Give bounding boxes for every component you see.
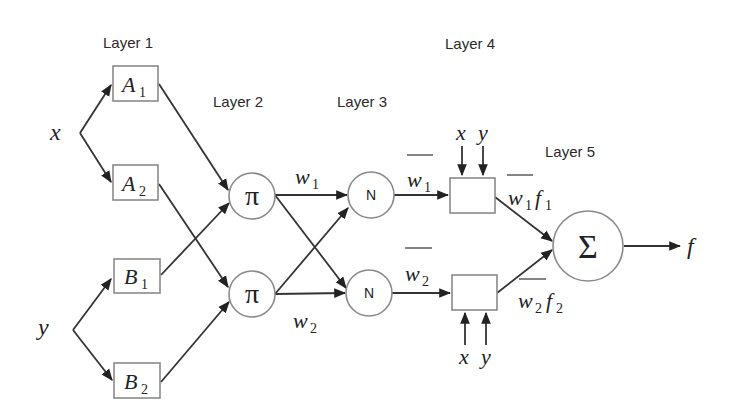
layer3-label: Layer 3 xyxy=(337,93,387,110)
svg-text:w: w xyxy=(295,164,310,189)
svg-text:1: 1 xyxy=(424,180,431,195)
label-w1-bar: w 1 xyxy=(407,155,433,195)
svg-text:A: A xyxy=(120,72,136,97)
svg-text:f: f xyxy=(546,288,555,313)
input-y: y xyxy=(36,314,49,340)
node-A1: A 1 xyxy=(113,66,158,101)
svg-text:Σ: Σ xyxy=(578,228,598,265)
svg-text:2: 2 xyxy=(422,274,429,289)
layer1-to-layer2-edges xyxy=(159,84,229,382)
layer1-label: Layer 1 xyxy=(103,34,153,51)
svg-text:w: w xyxy=(293,308,308,333)
layer2-label: Layer 2 xyxy=(213,93,263,110)
node-B2: B 2 xyxy=(114,363,160,398)
node-layer4-1 xyxy=(450,178,495,213)
svg-text:B: B xyxy=(124,264,137,289)
svg-text:w: w xyxy=(407,167,422,192)
label-w2f2: w 2 f 2 xyxy=(518,279,563,316)
layer4-top-y: y xyxy=(476,120,488,145)
svg-text:1: 1 xyxy=(545,198,552,213)
svg-text:w: w xyxy=(405,261,420,286)
label-w2: w 2 xyxy=(293,308,317,336)
layer4-top-inputs xyxy=(462,146,486,345)
svg-text:w: w xyxy=(518,288,533,313)
node-pi2: π xyxy=(229,271,275,317)
node-N1: N xyxy=(348,172,394,218)
svg-text:1: 1 xyxy=(139,85,146,100)
node-pi1: π xyxy=(229,173,275,219)
svg-text:2: 2 xyxy=(310,321,317,336)
layer3-to-layer4-edges xyxy=(392,195,450,293)
input-x: x xyxy=(49,119,61,145)
svg-text:B: B xyxy=(124,369,137,394)
anfis-diagram: Layer 1 Layer 2 Layer 3 Layer 4 Layer 5 … xyxy=(0,0,737,416)
svg-text:N: N xyxy=(366,187,376,203)
svg-text:2: 2 xyxy=(556,301,563,316)
node-sum: Σ xyxy=(553,211,623,281)
output-f: f xyxy=(687,233,697,259)
layer4-bottom-x: x xyxy=(458,344,469,369)
svg-text:2: 2 xyxy=(139,184,146,199)
node-A2: A 2 xyxy=(113,165,158,200)
label-w1: w 1 xyxy=(295,164,319,192)
svg-text:2: 2 xyxy=(535,301,542,316)
label-w2-bar: w 2 xyxy=(405,248,432,289)
svg-text:f: f xyxy=(535,185,544,210)
svg-text:N: N xyxy=(364,285,374,301)
svg-text:2: 2 xyxy=(141,382,148,397)
svg-text:π: π xyxy=(245,180,259,211)
svg-text:π: π xyxy=(245,278,259,309)
node-N2: N xyxy=(346,270,392,316)
layer4-top-x: x xyxy=(455,120,466,145)
label-w1f1: w 1 f 1 xyxy=(507,175,552,213)
svg-text:A: A xyxy=(120,171,136,196)
svg-text:1: 1 xyxy=(141,277,148,292)
layer4-label: Layer 4 xyxy=(445,35,495,52)
layer2-to-layer3-edges xyxy=(275,195,348,294)
svg-text:1: 1 xyxy=(525,198,532,213)
input-edges xyxy=(73,85,112,380)
node-layer4-2 xyxy=(452,275,497,310)
svg-text:1: 1 xyxy=(312,177,319,192)
node-B1: B 1 xyxy=(114,259,160,293)
svg-text:w: w xyxy=(508,185,523,210)
layer4-bottom-y: y xyxy=(479,344,491,369)
layer5-label: Layer 5 xyxy=(545,143,595,160)
